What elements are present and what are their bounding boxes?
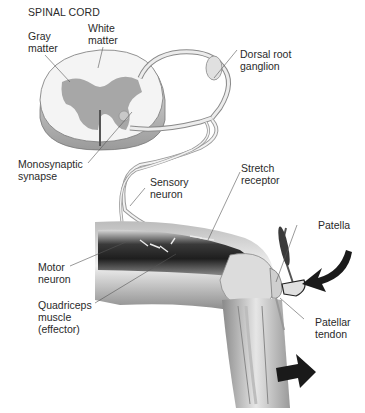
spinal-cord-title: SPINAL CORD: [28, 6, 100, 18]
dorsal-root-ganglion-label: Dorsal root ganglion: [240, 48, 291, 72]
patellar-tendon-label: Patellar tendon: [315, 316, 351, 340]
stretch-receptor-label: Stretch receptor: [241, 162, 280, 186]
motor-neuron-label: Motor neuron: [38, 261, 71, 285]
patella-label: Patella: [318, 219, 350, 231]
gray-matter-label: Gray matter: [28, 30, 58, 54]
sensory-neuron-label: Sensory neuron: [150, 176, 189, 200]
quadriceps-muscle-label: Quadriceps muscle (effector): [38, 299, 92, 335]
tap-arrow-icon: [302, 250, 352, 292]
monosynaptic-synapse-label: Monosynaptic synapse: [18, 158, 83, 182]
white-matter-label: White matter: [88, 22, 118, 46]
reflex-arc-illustration: [0, 0, 365, 413]
